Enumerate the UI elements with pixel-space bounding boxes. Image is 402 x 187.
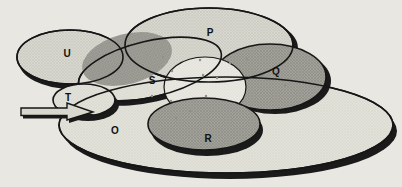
speck [171, 70, 173, 72]
speck [189, 110, 191, 112]
speck [216, 77, 218, 79]
set-label-R: R [204, 133, 212, 144]
venn-diagram-canvas: OUSPQRT [0, 0, 402, 187]
speck [261, 75, 263, 77]
speck [199, 59, 201, 61]
speck [151, 95, 153, 97]
speck [229, 62, 231, 64]
venn-diagram-figure: OUSPQRT [0, 0, 402, 187]
set-label-T: T [65, 92, 71, 103]
set-label-U: U [63, 48, 70, 59]
set-label-P: P [207, 27, 214, 38]
set-label-S: S [149, 75, 156, 86]
speck [284, 84, 286, 86]
speck [202, 74, 204, 76]
speck [205, 95, 207, 97]
set-label-O: O [111, 125, 119, 136]
speck [175, 117, 177, 119]
set-label-Q: Q [272, 66, 280, 77]
speck [162, 56, 164, 58]
speck [246, 58, 248, 60]
speck [170, 100, 172, 102]
